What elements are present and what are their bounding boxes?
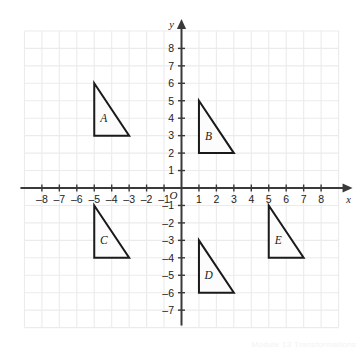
y-tick-label: 1	[168, 164, 174, 176]
triangle-label-A: A	[99, 112, 108, 124]
x-tick-label: 4	[248, 193, 254, 205]
x-tick-label: 3	[231, 193, 237, 205]
y-tick-label: 8	[168, 42, 174, 54]
x-tick-label: –4	[106, 193, 118, 205]
y-tick-label: 2	[168, 147, 174, 159]
x-tick-label: 2	[213, 193, 219, 205]
watermark-caption: Module 13 Transformations	[252, 340, 356, 349]
x-tick-label: –7	[54, 193, 66, 205]
x-tick-label: –6	[71, 193, 83, 205]
y-tick-label: –1	[162, 199, 174, 211]
y-tick-label: 5	[168, 95, 174, 107]
y-tick-label: 6	[168, 77, 174, 89]
origin-label: O	[170, 189, 178, 201]
x-tick-label: 6	[283, 193, 289, 205]
x-tick-label: 1	[196, 193, 202, 205]
plot-background	[0, 0, 360, 351]
x-tick-label: –3	[123, 193, 135, 205]
x-tick-label: 8	[318, 193, 324, 205]
x-tick-label: –8	[36, 193, 48, 205]
triangle-label-D: D	[203, 269, 213, 281]
y-tick-label: –4	[162, 252, 174, 264]
x-tick-label: –2	[141, 193, 153, 205]
y-axis-label: y	[168, 19, 174, 30]
y-tick-label: 3	[168, 129, 174, 141]
x-tick-label: 7	[301, 193, 307, 205]
y-tick-label: –7	[162, 304, 174, 316]
coordinate-plane: –8–7–6–5–4–3–2–11234567887654321–1–2–3–4…	[0, 0, 360, 351]
y-tick-label: –6	[162, 287, 174, 299]
x-tick-label: 5	[266, 193, 272, 205]
triangle-label-C: C	[100, 234, 108, 246]
y-tick-label: –5	[162, 269, 174, 281]
triangle-label-B: B	[205, 130, 212, 142]
y-tick-label: 7	[168, 60, 174, 72]
triangle-label-E: E	[274, 234, 282, 246]
y-tick-label: 4	[168, 112, 174, 124]
y-tick-label: –3	[162, 234, 174, 246]
x-tick-label: –5	[88, 193, 100, 205]
figure-root: –8–7–6–5–4–3–2–11234567887654321–1–2–3–4…	[0, 0, 360, 351]
x-axis-label: x	[345, 194, 351, 205]
y-tick-label: –2	[162, 217, 174, 229]
